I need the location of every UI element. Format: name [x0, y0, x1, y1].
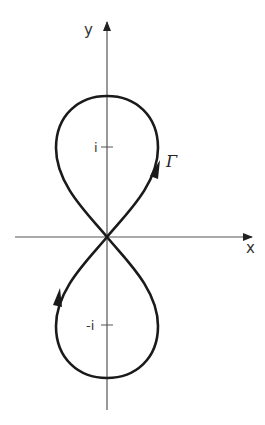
contour-diagram: y x i -i Γ [0, 0, 265, 425]
tick-label-minus-i: -i [86, 318, 94, 333]
tick-label-i: i [94, 140, 98, 155]
y-axis-label: y [84, 21, 93, 39]
x-axis-label: x [246, 239, 255, 257]
curve-label-gamma: Γ [165, 152, 178, 171]
arrow-lower-icon [53, 288, 62, 307]
